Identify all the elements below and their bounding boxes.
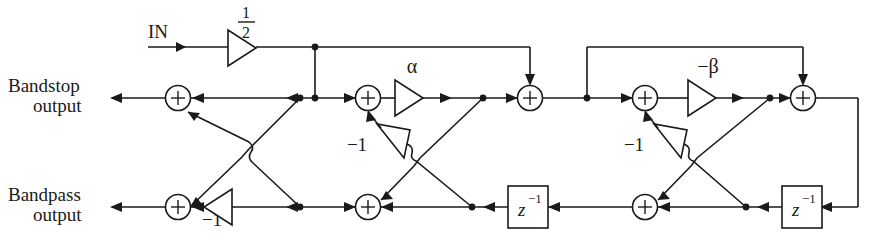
arrow-bandstop-output [110, 93, 122, 103]
bandstop-output-label-line1: Bandstop [8, 75, 80, 96]
arrow-negone-mid-into-adder [366, 110, 376, 122]
delay-2-base: z [791, 199, 800, 220]
half-gain-numerator: 1 [242, 4, 250, 21]
gain-neg-one-mid-triangle [377, 124, 410, 158]
half-gain-denominator: 2 [242, 24, 250, 41]
arrow-delay2-output [757, 202, 769, 212]
arrow-negbeta-output [732, 93, 744, 103]
arrow-into-adder-bandstop-3-left [506, 93, 518, 103]
bandpass-output-label-line2: output [33, 204, 82, 225]
arrow-negbeta-tap-into-bandpass [658, 191, 670, 200]
arrow-into-adder-bandpass-2 [381, 202, 393, 212]
wire-bandpass-join-to-negone-mid [407, 144, 472, 207]
arrow-into-adder-bandstop-4 [621, 93, 633, 103]
flow-graph-canvas: IN Bandstop output Bandpass output 1 2 α… [0, 0, 882, 241]
arrow-input [176, 42, 186, 52]
arrow-into-adder-bandstop-5-top [798, 74, 808, 86]
gain-alpha-triangle [395, 80, 423, 116]
arrow-negone-right-into-adder [643, 110, 653, 122]
arrow-into-adder-bandstop-5-left [779, 93, 791, 103]
arrow-alpha-output [440, 93, 452, 103]
arrow-into-adder-bandstop-3-top [525, 74, 535, 86]
input-label: IN [148, 21, 168, 42]
arrow-bandpass-output [110, 202, 122, 212]
bandpass-output-label-line1: Bandpass [8, 184, 81, 205]
delay-1-exponent: −1 [528, 191, 542, 206]
neg-one-right-label: −1 [624, 134, 644, 155]
arrow-into-adder-bandstop-2 [344, 93, 356, 103]
alpha-gain-label: α [407, 55, 418, 77]
arrow-into-adder-bandstop-1 [192, 93, 204, 103]
gain-neg-beta-triangle [688, 80, 716, 116]
arrow-out-adder-bandpass-2 [344, 202, 356, 212]
bandstop-output-label-line2: output [33, 95, 82, 116]
arrow-alpha-tap-into-bandpass [381, 191, 393, 200]
neg-beta-gain-label: −β [697, 55, 718, 78]
neg-one-mid-label: −1 [347, 134, 367, 155]
delay-1-base: z [517, 199, 526, 220]
wire-bandpass-join-right-to-negone-right [684, 144, 746, 207]
gain-neg-one-right-triangle [654, 124, 687, 158]
signal-flow-diagram: IN Bandstop output Bandpass output 1 2 α… [0, 0, 882, 241]
arrow-delay1-output [483, 202, 495, 212]
delay-2-exponent: −1 [802, 191, 816, 206]
arrow-into-delay1 [548, 202, 560, 212]
